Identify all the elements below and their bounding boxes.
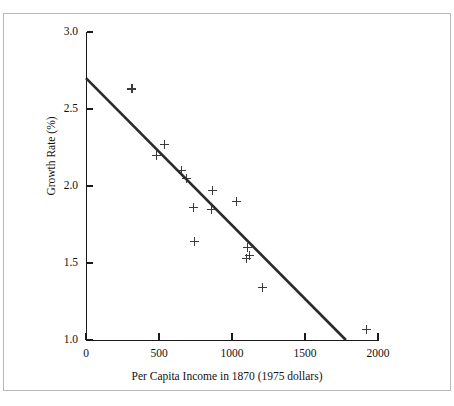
- y-tick-label: 1.0: [38, 334, 78, 346]
- data-point: [189, 203, 198, 212]
- y-tick-label: 2.5: [38, 103, 78, 115]
- x-tick-label: 0: [56, 348, 116, 360]
- data-point: [207, 205, 216, 214]
- x-tick-mark: [231, 333, 232, 340]
- data-point: [245, 251, 254, 260]
- x-tick-label: 1500: [275, 348, 335, 360]
- y-tick-mark: [87, 185, 93, 186]
- x-axis-title: Per Capita Income in 1870 (1975 dollars): [0, 370, 454, 382]
- y-tick-mark: [87, 339, 93, 340]
- x-tick-mark: [304, 333, 305, 340]
- y-tick-mark: [87, 31, 93, 32]
- data-point: [258, 283, 267, 292]
- data-point: [232, 197, 241, 206]
- data-point: [160, 140, 169, 149]
- data-point: [182, 174, 191, 183]
- x-tick-mark: [158, 333, 159, 340]
- x-tick-label: 1000: [202, 348, 262, 360]
- y-tick-mark: [87, 262, 93, 263]
- data-point: [190, 237, 199, 246]
- x-axis-line: [86, 340, 379, 341]
- figure-container: 1.01.52.02.53.0 0500100015002000 Growth …: [0, 0, 454, 406]
- data-point: [362, 325, 371, 334]
- data-point: [208, 186, 217, 195]
- data-point: [127, 84, 136, 93]
- x-tick-mark: [377, 333, 378, 340]
- y-axis-title: Growth Rate (%): [45, 71, 57, 241]
- y-tick-label: 2.0: [38, 180, 78, 192]
- x-tick-label: 500: [129, 348, 189, 360]
- y-tick-mark: [87, 108, 93, 109]
- x-tick-mark: [85, 333, 86, 340]
- y-tick-label: 1.5: [38, 257, 78, 269]
- data-point: [152, 151, 161, 160]
- y-tick-label: 3.0: [38, 26, 78, 38]
- x-tick-label: 2000: [348, 348, 408, 360]
